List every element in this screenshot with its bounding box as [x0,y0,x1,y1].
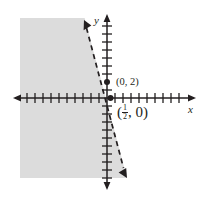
y-axis-top-arrowhead [104,14,111,22]
x-intercept-label: (12, 0) [117,104,148,122]
x-axis-label: x [188,104,193,115]
fraction-numerator: 1 [122,104,128,112]
x-intercept-close-text: , 0) [128,104,148,120]
inequality-graph-figure: y x (0, 2) (12, 0) [0,0,207,198]
x-axis-right-arrowhead [188,95,196,102]
one-half-fraction: 12 [122,104,128,122]
x-axis-left-arrowhead [13,95,21,102]
y-axis-label: y [94,15,99,26]
point-marker-x-intercept [108,95,114,101]
y-intercept-label: (0, 2) [116,77,139,88]
y-axis-bottom-arrowhead [104,182,111,190]
graph-canvas [0,0,207,198]
point-marker-y-intercept [104,79,110,85]
fraction-denominator: 2 [122,112,128,121]
